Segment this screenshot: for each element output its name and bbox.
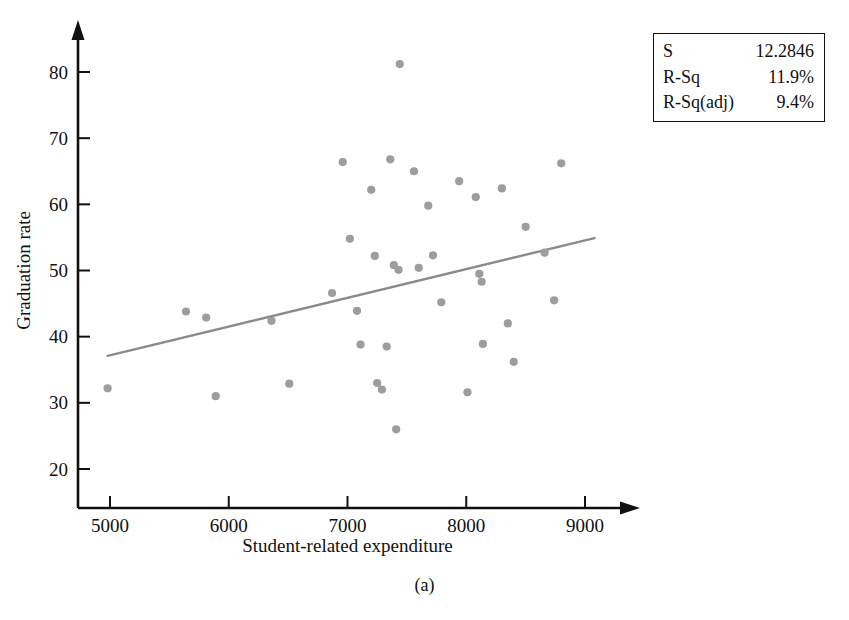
legend-row-label: R-Sq xyxy=(663,65,718,91)
scatter-plot-figure: 2030405060708050006000700080009000 Stude… xyxy=(0,0,849,620)
data-point xyxy=(104,384,112,392)
data-point xyxy=(479,340,487,348)
x-axis-tick-label: 7000 xyxy=(329,515,367,536)
data-point xyxy=(429,251,437,259)
axes xyxy=(72,20,641,515)
data-point xyxy=(373,379,381,387)
x-axis-arrow-icon xyxy=(620,502,640,515)
x-axis-tick-label: 6000 xyxy=(210,515,248,536)
data-point xyxy=(510,358,518,366)
data-point xyxy=(541,249,549,257)
data-point xyxy=(504,319,512,327)
tick-labels: 2030405060708050006000700080009000 xyxy=(49,62,604,537)
data-point xyxy=(394,266,402,274)
data-point xyxy=(463,388,471,396)
data-point xyxy=(478,278,486,286)
statistics-legend-box: S12.2846R-Sq11.9%R-Sq(adj)9.4% xyxy=(653,33,825,122)
data-points xyxy=(104,60,566,433)
y-axis-tick-label: 40 xyxy=(49,326,68,347)
regression-fit-line xyxy=(108,238,595,356)
data-point xyxy=(383,342,391,350)
legend-row: R-Sq11.9% xyxy=(663,65,814,91)
figure-caption: (a) xyxy=(0,575,849,596)
x-axis-tick-label: 9000 xyxy=(566,515,604,536)
data-point xyxy=(353,307,361,315)
legend-row-label: R-Sq(adj) xyxy=(663,90,752,116)
y-axis-tick-label: 20 xyxy=(49,459,68,480)
y-axis-tick-label: 30 xyxy=(49,392,68,413)
data-point xyxy=(550,296,558,304)
x-axis-tick-label: 5000 xyxy=(91,515,129,536)
y-axis-tick-label: 80 xyxy=(49,62,68,83)
data-point xyxy=(371,252,379,260)
y-axis-tick-label: 60 xyxy=(49,194,68,215)
x-axis-tick-label: 8000 xyxy=(447,515,485,536)
legend-row-value: 9.4% xyxy=(777,90,815,116)
y-axis-arrow-icon xyxy=(72,20,85,40)
data-point xyxy=(367,186,375,194)
data-point xyxy=(475,270,483,278)
data-point xyxy=(455,177,463,185)
data-point xyxy=(378,386,386,394)
data-point xyxy=(346,235,354,243)
data-point xyxy=(386,155,394,163)
legend-row: R-Sq(adj)9.4% xyxy=(663,90,814,116)
data-point xyxy=(392,425,400,433)
data-point xyxy=(212,392,220,400)
x-axis-title: Student-related expenditure xyxy=(242,535,453,556)
data-point xyxy=(339,158,347,166)
y-axis-title: Graduation rate xyxy=(13,211,34,330)
data-point xyxy=(182,307,190,315)
data-point xyxy=(415,264,423,272)
data-point xyxy=(424,202,432,210)
data-point xyxy=(356,341,364,349)
data-point xyxy=(472,193,480,201)
regression-line xyxy=(108,238,595,356)
data-point xyxy=(328,289,336,297)
data-point xyxy=(202,313,210,321)
data-point xyxy=(557,159,565,167)
legend-row-label: S xyxy=(663,39,691,65)
data-point xyxy=(522,223,530,231)
data-point xyxy=(437,298,445,306)
data-point xyxy=(498,184,506,192)
legend-row-value: 12.2846 xyxy=(756,39,815,65)
data-point xyxy=(267,317,275,325)
y-axis-tick-label: 50 xyxy=(49,260,68,281)
y-axis-tick-label: 70 xyxy=(49,128,68,149)
data-point xyxy=(396,60,404,68)
data-point xyxy=(285,380,293,388)
legend-row-value: 11.9% xyxy=(768,65,814,91)
legend-row: S12.2846 xyxy=(663,39,814,65)
data-point xyxy=(410,167,418,175)
